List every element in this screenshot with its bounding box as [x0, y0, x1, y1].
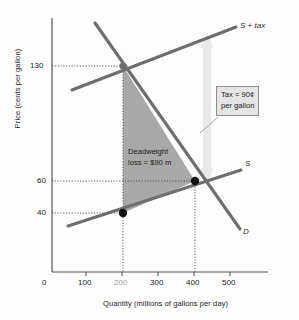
- deadweight-loss-line1: Deadweight: [128, 147, 206, 158]
- x-tick-label-0: 0: [42, 278, 46, 287]
- y-tick-label-60: 60: [37, 176, 46, 185]
- deadweight-loss-label: Deadweight loss = $90 m: [128, 147, 206, 168]
- supply-plus-tax-label: S + tax: [240, 21, 265, 30]
- tax-callout-line2: per gallon: [221, 101, 254, 112]
- supply-demand-tax-figure: 130 60 40 0 100 200 300 400 500 Price (c…: [0, 0, 299, 320]
- x-tick-label-500: 500: [222, 278, 235, 287]
- y-tick-label-40: 40: [37, 208, 46, 217]
- demand-label: D: [243, 227, 249, 236]
- x-tick-label-300: 300: [150, 278, 163, 287]
- x-tick-label-400: 400: [186, 278, 199, 287]
- deadweight-loss-line2: loss = $90 m: [128, 158, 206, 169]
- y-tick-label-130: 130: [30, 61, 43, 70]
- marker-with-tax-equilibrium: [119, 62, 126, 69]
- deadweight-loss-region: [123, 66, 195, 213]
- x-tick-label-100: 100: [78, 278, 91, 287]
- x-tick-label-200: 200: [114, 278, 127, 287]
- y-axis-title: Price (cents per gallon): [13, 29, 22, 149]
- supply-plus-tax-curve: [72, 27, 236, 90]
- tax-callout-box: Tax = 90¢ per gallon: [216, 86, 259, 116]
- tax-callout-line1: Tax = 90¢: [221, 90, 254, 101]
- marker-sellers-receive: [119, 209, 127, 217]
- marker-no-tax-equilibrium: [191, 177, 199, 185]
- supply-label: S: [245, 159, 250, 168]
- x-axis-title: Quantity (millions of gallons per day): [103, 299, 228, 308]
